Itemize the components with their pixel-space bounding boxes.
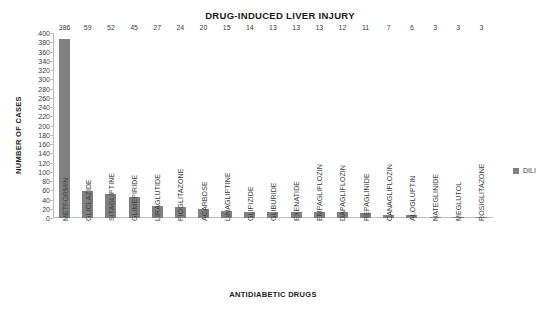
y-axis-tick-mark	[49, 52, 53, 53]
y-axis-tick-mark	[49, 79, 53, 80]
y-axis-tick-label: 120	[24, 159, 50, 166]
x-axis-tick-label: ALOGLUPTIN	[408, 176, 415, 221]
bar-value-label: 6	[410, 24, 414, 31]
y-axis-tick-mark	[49, 190, 53, 191]
x-axis-tick-label: GLIMEPIRIDE	[131, 175, 138, 221]
y-axis-tick-label: 20	[24, 205, 50, 212]
x-axis-tick-slot: GLIPIZIDE	[238, 221, 261, 287]
x-axis-tick-label: SITAGLIPTINE	[107, 173, 114, 221]
bar-value-label: 12	[339, 24, 347, 31]
y-axis-tick-label: 0	[24, 215, 50, 222]
x-axis-tick-slot: EXENATIDE	[285, 221, 308, 287]
bar-value-label: 11	[362, 24, 369, 31]
x-axis-tick-label: LINAGLIPTINE	[223, 172, 230, 221]
y-axis-tick-mark	[49, 70, 53, 71]
y-axis-tick-label: 60	[24, 187, 50, 194]
y-axis-tick-mark	[49, 98, 53, 99]
bar-value-label: 24	[176, 24, 184, 31]
bar-value-label: 27	[153, 24, 161, 31]
y-axis-tick-mark	[49, 218, 53, 219]
bar-value-label: 386	[59, 24, 71, 31]
x-axis-tick-slot: PIOGLITAZONE	[169, 221, 192, 287]
x-axis-tick-slot: MEGLUTOL	[447, 221, 470, 287]
y-axis-tick-label: 380	[24, 39, 50, 46]
x-axis-tick-label: ACARBOSE	[200, 181, 207, 221]
bar-value-label: 13	[292, 24, 300, 31]
bar-value-label: 20	[200, 24, 208, 31]
y-axis-tick-label: 140	[24, 150, 50, 157]
y-axis-tick-label: 240	[24, 104, 50, 111]
bar-value-label: 3	[433, 24, 437, 31]
x-axis-tick-slot: REPAGLINIDE	[354, 221, 377, 287]
x-axis-tick-slot: ALOGLUPTIN	[400, 221, 423, 287]
x-axis-tick-label: NATEGLINIDE	[432, 174, 439, 221]
y-axis-tick-label: 320	[24, 67, 50, 74]
x-axis-tick-slot: LINAGLIPTINE	[215, 221, 238, 287]
y-axis-tick-label: 360	[24, 48, 50, 55]
x-axis-tick-slot: EMPAGLIFLOZIN	[308, 221, 331, 287]
x-axis-tick-label: DAPAGLIFLOZIN	[339, 165, 346, 221]
x-axis-tick-slot: GLIMEPIRIDE	[122, 221, 145, 287]
y-axis-tick-label: 100	[24, 168, 50, 175]
legend-swatch-dili	[513, 168, 519, 174]
x-axis-tick-slot: ACARBOSE	[192, 221, 215, 287]
x-axis-tick-slot: GLIBURIDE	[261, 221, 284, 287]
chart-legend: DILI	[513, 167, 536, 174]
x-axis-tick-label: LIRAGLUTIDE	[154, 174, 161, 221]
y-axis-tick-labels: 4003803603403203002802602402202001801601…	[24, 33, 50, 218]
y-axis-tick-mark	[49, 135, 53, 136]
y-axis-tick-mark	[49, 126, 53, 127]
x-axis-tick-slot: METFORMIN	[53, 221, 76, 287]
x-axis-tick-slot: SITAGLIPTINE	[99, 221, 122, 287]
bar-value-label: 14	[246, 24, 254, 31]
x-axis-tick-label: METFORMIN	[61, 178, 68, 221]
x-axis-tick-label: GLIPIZIDE	[246, 186, 253, 221]
y-axis-tick-label: 400	[24, 30, 50, 37]
x-axis-tick-label: REPAGLINIDE	[362, 173, 369, 221]
x-axis-tick-slot: CANAGLIFLOZIN	[377, 221, 400, 287]
y-axis-tick-mark	[49, 181, 53, 182]
x-axis-tick-slot: DAPAGLIFLOZIN	[331, 221, 354, 287]
bar-value-label: 3	[479, 24, 483, 31]
y-axis-tick-mark	[49, 144, 53, 145]
y-axis-tick-mark	[49, 107, 53, 108]
y-axis-tick-mark	[49, 200, 53, 201]
y-axis-tick-label: 180	[24, 131, 50, 138]
y-axis-tick-mark	[49, 172, 53, 173]
x-axis-tick-slot: LIRAGLUTIDE	[146, 221, 169, 287]
x-axis-title: ANTIDIABETIC DRUGS	[53, 290, 493, 299]
bar-value-label: 13	[269, 24, 277, 31]
y-axis-tick-label: 80	[24, 178, 50, 185]
y-axis-tick-mark	[49, 153, 53, 154]
y-axis-tick-label: 280	[24, 85, 50, 92]
bar-value-label: 59	[84, 24, 92, 31]
y-axis-tick-mark	[49, 116, 53, 117]
x-axis-tick-label: GLICLAZIDE	[84, 179, 91, 221]
bar-value-label: 7	[387, 24, 391, 31]
y-axis-tick-label: 260	[24, 94, 50, 101]
y-axis-tick-mark	[49, 42, 53, 43]
bar-value-label: 52	[107, 24, 115, 31]
x-axis-tick-slot: NATEGLINIDE	[424, 221, 447, 287]
x-axis-tick-label: PIOGLITAZONE	[177, 169, 184, 221]
bar-value-label: 13	[315, 24, 323, 31]
y-axis-tick-label: 200	[24, 122, 50, 129]
bar-value-label: 3	[456, 24, 460, 31]
x-axis-tick-label: EXENATIDE	[293, 181, 300, 221]
y-axis-tick-label: 40	[24, 196, 50, 203]
x-axis-tick-label: EMPAGLIFLOZIN	[316, 164, 323, 221]
y-axis-tick-mark	[49, 61, 53, 62]
bar-value-label: 15	[223, 24, 231, 31]
legend-label-dili: DILI	[523, 167, 536, 174]
x-axis-tick-label: ROSIGLITAZONE	[478, 163, 485, 221]
y-axis-tick-mark	[49, 163, 53, 164]
x-axis-tick-slot: ROSIGLITAZONE	[470, 221, 493, 287]
x-axis-tick-labels: METFORMINGLICLAZIDESITAGLIPTINEGLIMEPIRI…	[53, 221, 493, 287]
chart-container: DRUG-INDUCED LIVER INJURY NUMBER OF CASE…	[0, 0, 560, 313]
y-axis-tick-label: 220	[24, 113, 50, 120]
bar-value-label: 45	[130, 24, 138, 31]
chart-title: DRUG-INDUCED LIVER INJURY	[0, 10, 560, 21]
x-axis-tick-label: MEGLUTOL	[455, 182, 462, 221]
y-axis-tick-mark	[49, 89, 53, 90]
x-axis-tick-label: GLIBURIDE	[269, 182, 276, 221]
